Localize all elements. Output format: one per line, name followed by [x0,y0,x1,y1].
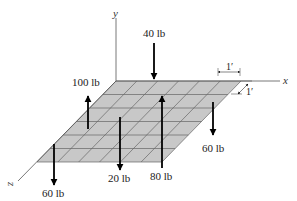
y-axis-label: y [112,7,118,19]
force-label: 80 lb [150,170,173,182]
force-label: 60 lb [42,187,65,199]
force-label: 40 lb [143,27,166,39]
force-diagram: y x z 1′ 1′ 40 lb 100 lb 80 lb 60 lb 20 … [0,0,297,201]
force-label: 100 lb [72,76,100,88]
dimension-z-label: 1′ [246,86,253,97]
dimension-x-label: 1′ [226,61,233,72]
force-label: 60 lb [202,142,225,154]
z-axis-label: z [6,181,18,187]
force-40lb: 40 lb [143,27,166,79]
x-axis-label: x [282,74,288,86]
dimension-x: 1′ [218,61,240,76]
force-label: 20 lb [108,172,131,184]
